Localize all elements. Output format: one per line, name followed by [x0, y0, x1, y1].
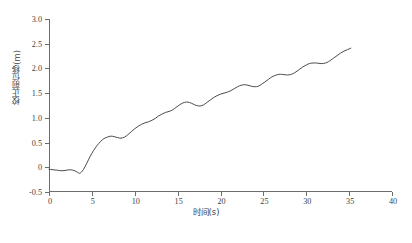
y-tick-label: 2.0 — [32, 65, 42, 73]
x-tick: 10 — [135, 192, 136, 196]
x-axis-title: 时间(s) — [0, 205, 412, 217]
data-series-layer — [49, 19, 392, 192]
y-tick-label: 1.0 — [32, 115, 42, 123]
x-tick: 5 — [92, 192, 93, 196]
y-tick-label: 2.5 — [32, 41, 42, 49]
x-tick: 0 — [49, 192, 50, 196]
figure-container: 校正前位移(m) -0.500.51.01.52.02.53.0 0510152… — [0, 0, 412, 243]
y-tick-label: 1.5 — [32, 90, 42, 98]
y-tick-label: 0 — [38, 164, 42, 172]
y-tick-label: 0.5 — [32, 139, 42, 147]
plot-area: -0.500.51.01.52.02.53.0 0510152025303540 — [49, 19, 392, 192]
x-tick: 25 — [263, 192, 264, 196]
x-tick: 15 — [178, 192, 179, 196]
x-tick: 20 — [221, 192, 222, 196]
x-tick: 35 — [349, 192, 350, 196]
series-line-校正前位移 — [49, 48, 351, 173]
x-tick: 40 — [392, 192, 393, 196]
y-tick-label: 3.0 — [32, 16, 42, 24]
x-tick: 30 — [306, 192, 307, 196]
y-tick-label: -0.5 — [29, 189, 42, 197]
y-axis-title: 校正前位移(m) — [13, 50, 25, 105]
